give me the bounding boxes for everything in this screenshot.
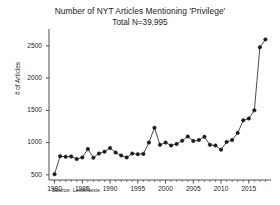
data-point (114, 151, 118, 155)
data-point (242, 119, 246, 123)
data-point (169, 144, 173, 148)
data-point (147, 141, 151, 145)
data-point (81, 156, 85, 160)
data-point (64, 155, 68, 159)
data-point (69, 155, 73, 159)
data-point (208, 143, 212, 147)
data-point (203, 135, 207, 139)
data-point (158, 143, 162, 147)
data-point (219, 148, 223, 152)
data-point (230, 138, 234, 142)
data-point (247, 117, 251, 121)
data-point (92, 156, 96, 160)
data-point (75, 157, 79, 161)
chart-axes (46, 29, 271, 184)
data-point (86, 147, 90, 151)
data-point (97, 152, 101, 156)
data-point (192, 139, 196, 143)
data-point (131, 152, 135, 156)
chart-plot-area (0, 0, 280, 205)
data-point (136, 152, 140, 156)
data-point (103, 150, 107, 154)
chart-series-privilege (53, 38, 267, 176)
data-point (253, 109, 257, 113)
data-point (225, 140, 229, 144)
data-point (108, 146, 112, 150)
data-point (258, 45, 262, 49)
data-point (180, 139, 184, 143)
data-point (142, 152, 146, 156)
data-point (186, 135, 190, 139)
data-point (53, 172, 57, 176)
data-point (214, 144, 218, 148)
data-point (125, 156, 129, 160)
data-point (119, 154, 123, 158)
chart-figure: Number of NYT Articles Mentioning 'Privi… (0, 0, 280, 205)
data-point (236, 131, 240, 135)
data-point (175, 142, 179, 146)
data-point (153, 126, 157, 130)
data-point (264, 38, 268, 42)
data-point (164, 141, 168, 145)
data-point (197, 138, 201, 142)
data-point (58, 154, 62, 158)
